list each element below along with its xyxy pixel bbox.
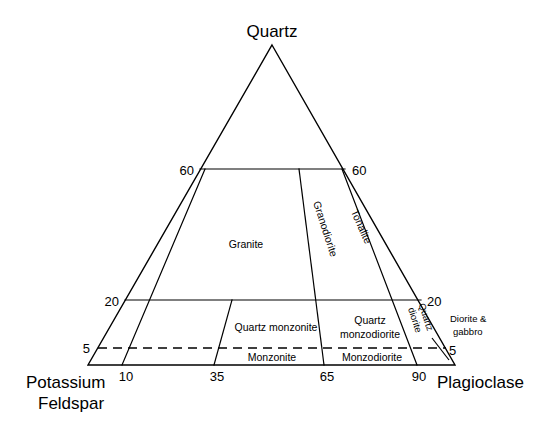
corner-label-potassium: Potassium [26,373,105,392]
boundary-line-10 [122,169,205,365]
field-label-quartz-monzonite: Quartz monzonite [235,321,318,333]
field-label-monzonite: Monzonite [248,351,297,363]
axis-number-left-20: 20 [105,294,119,309]
axis-number-right-60: 60 [352,163,366,178]
field-label-quartz-monzodiorite-line1: Quartz [354,314,386,326]
field-label-monzodiorite: Monzodiorite [342,351,402,363]
corner-label-plagioclase: Plagioclase [437,373,524,392]
triangle-outline-path [88,45,455,365]
axis-number-left-5: 5 [83,341,90,356]
axis-number-base-65: 65 [320,369,334,384]
qap-ternary-diagram: Quartz Potassium Feldspar Plagioclase 60… [0,0,540,425]
apex-label-quartz: Quartz [246,22,297,41]
field-label-tonalite: Tonalite [349,207,375,245]
axis-number-base-10: 10 [119,369,133,384]
boundary-line-35 [214,300,232,365]
axis-number-right-5: 5 [449,343,456,358]
field-label-granite: Granite [229,238,264,250]
ternary-plot-canvas: Quartz Potassium Feldspar Plagioclase 60… [0,0,540,425]
triangle-outline [88,45,455,365]
axis-number-base-35: 35 [210,369,224,384]
field-label-quartz-monzodiorite-line2: monzodiorite [340,328,400,340]
field-label-diorite-gabbro-line2: gabbro [453,326,483,337]
axis-number-base-90: 90 [412,369,426,384]
axis-number-left-60: 60 [180,163,194,178]
corner-label-feldspar: Feldspar [38,394,104,413]
field-label-granodiorite: Granodiorite [311,199,340,258]
field-label-diorite-gabbro-line1: Diorite & [450,313,487,324]
boundary-line-65 [299,169,324,365]
